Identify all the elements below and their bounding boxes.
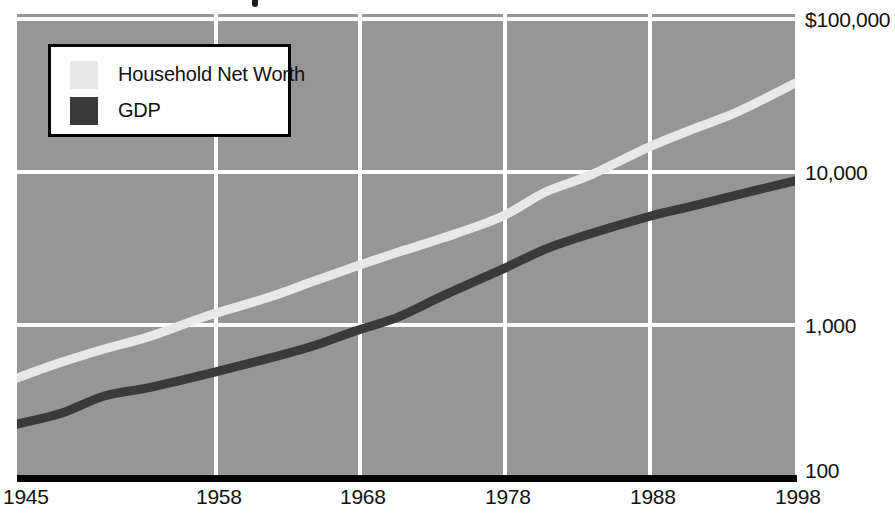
legend-label-household-net-worth: Household Net Worth [118, 63, 305, 86]
y-tick-label-10000: 10,000 [805, 161, 867, 185]
x-tick-label-1978: 1978 [485, 485, 531, 509]
x-axis-bar [17, 475, 797, 482]
x-tick-label-1945: 1945 [3, 485, 49, 509]
y-tick-label-100000: $100,000 [805, 8, 890, 32]
chart-legend: Household Net Worth GDP [48, 44, 291, 137]
legend-label-gdp: GDP [118, 99, 161, 122]
x-tick-label-1988: 1988 [630, 485, 676, 509]
x-tick-label-1998: 1998 [775, 485, 821, 509]
chart-figure: Household Net Worth GDP $100,000 10,000 … [0, 0, 895, 517]
title-fragment [252, 0, 258, 7]
legend-swatch-gdp [70, 97, 98, 125]
legend-entry-household-net-worth: Household Net Worth [70, 58, 288, 91]
legend-swatch-household-net-worth [70, 61, 98, 89]
legend-entry-gdp: GDP [70, 94, 288, 127]
y-tick-label-1000: 1,000 [805, 314, 856, 338]
series-line-gdp [17, 181, 795, 424]
y-tick-label-100: 100 [805, 459, 839, 483]
x-tick-label-1958: 1958 [196, 485, 242, 509]
x-tick-label-1968: 1968 [340, 485, 386, 509]
